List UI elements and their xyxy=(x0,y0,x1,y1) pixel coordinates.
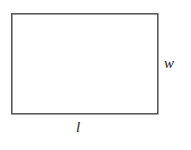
width-label: w xyxy=(164,56,174,71)
rectangle-figure: w l xyxy=(0,0,191,150)
rectangle-shape xyxy=(12,14,158,114)
length-label: l xyxy=(76,120,80,135)
figure-canvas xyxy=(0,0,191,150)
